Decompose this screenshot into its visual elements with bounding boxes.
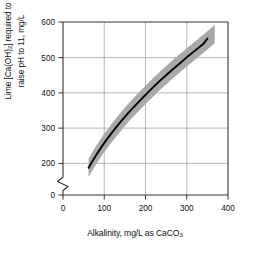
y-tick-label: 400 [41,89,55,98]
y-axis-title-line1: Lime [Ca(OH)2] required to [3,0,16,131]
y-tick-label: 500 [41,54,55,63]
x-tick-marks [63,195,228,200]
x-tick-labels: 0 100 200 300 400 [61,204,236,213]
y-tick-label: 300 [41,124,55,133]
y-tick-marks [59,22,64,195]
x-tick-label: 400 [221,204,235,213]
x-tick-label: 200 [139,204,153,213]
x-axis-title-main: Alkalinity, mg/L as CaCO [87,228,179,238]
chart-figure: 600 500 400 300 200 0 0 100 200 300 400 … [0,0,270,254]
y-tick-label: 0 [50,191,55,200]
y-axis-title-line1-a: Lime [Ca(OH) [3,49,13,99]
x-axis-title-sub: 3 [179,231,182,238]
y-tick-labels: 600 500 400 300 200 0 [41,18,55,200]
y-axis-title-line1-sub: 2 [7,46,13,49]
y-axis-title-line2: raise pH to 11, mg/L [16,0,27,131]
lime-dose-vs-alkalinity-chart: 600 500 400 300 200 0 0 100 200 300 400 [0,0,270,254]
x-tick-label: 100 [97,204,111,213]
y-axis-title-line1-b: ] required to [3,2,13,45]
y-tick-label: 600 [41,18,55,27]
x-tick-label: 300 [180,204,194,213]
x-tick-label: 0 [61,204,66,213]
x-axis-title: Alkalinity, mg/L as CaCO3 [0,228,270,238]
y-axis-title: Lime [Ca(OH)2] required to raise pH to 1… [3,0,33,131]
y-tick-label: 200 [41,159,55,168]
